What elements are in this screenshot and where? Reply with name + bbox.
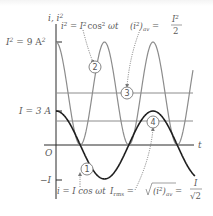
svg-text:2: 2 <box>92 63 97 72</box>
marker-1: 1 <box>81 163 93 175</box>
eq-irms-denominator: √2 <box>190 191 201 201</box>
eq-irms: Irms = <box>109 186 134 197</box>
t-axis-label: t <box>198 140 202 150</box>
svg-text:3: 3 <box>124 89 129 98</box>
i2-peak-label: I2 = 9 A2 <box>5 36 46 47</box>
eq-irms-root-body: (i2)av = <box>153 186 182 197</box>
marker-4: 4 <box>147 116 159 128</box>
svg-text:1: 1 <box>84 165 89 174</box>
eq-i-squared-average-denominator: 2 <box>173 26 178 36</box>
marker-3: 3 <box>121 87 133 99</box>
eq-irms-numerator: I <box>193 178 198 188</box>
i-peak-label: I = 3 A <box>18 106 51 116</box>
origin-label: O <box>45 148 53 158</box>
leader-3 <box>127 30 140 86</box>
svg-text:4: 4 <box>150 118 155 127</box>
eq-i-squared: i2 = I2cos2 ωt <box>61 21 119 31</box>
leader-2 <box>83 30 93 62</box>
eq-i-cosine: i = I cos ωt <box>57 186 106 196</box>
eq-i-squared-average: (i2)av = <box>130 21 159 32</box>
ac-power-diagram: 1 2 3 4 i, i2 t O I2 = 9 A2 I = 3 A −I i… <box>0 0 213 216</box>
eq-i-squared-average-numerator: I2 <box>171 14 179 24</box>
leader-4 <box>135 129 153 190</box>
i-neg-label: −I <box>40 175 52 185</box>
marker-2: 2 <box>89 61 101 73</box>
